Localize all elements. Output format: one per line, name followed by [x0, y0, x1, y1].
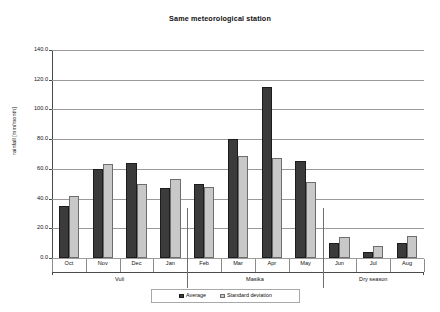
legend-swatch-average-icon	[179, 294, 184, 299]
bar-oct-standard-deviation	[69, 196, 79, 258]
y-axis-tick-mark	[49, 50, 52, 51]
chart-title: Same meteorological station	[0, 14, 440, 23]
y-axis-tick-label: 120.0	[14, 77, 48, 83]
y-axis-tick-label: 20.0	[14, 225, 48, 231]
bar-feb-standard-deviation	[204, 187, 214, 258]
gridline	[52, 50, 424, 51]
bar-dec-standard-deviation	[137, 184, 147, 258]
y-axis-tick-label: 140.0	[14, 47, 48, 53]
x-axis-label-mar: Mar	[221, 261, 255, 267]
x-axis-label-nov: Nov	[86, 261, 120, 267]
season-rule	[52, 272, 187, 273]
bar-jan-standard-deviation	[170, 179, 180, 258]
x-axis-label-jul: Jul	[356, 261, 390, 267]
x-axis-label-jun: Jun	[323, 261, 357, 267]
x-axis-separator	[424, 259, 425, 272]
bar-may-average	[295, 161, 305, 258]
bar-aug-standard-deviation	[407, 236, 417, 258]
bar-oct-average	[59, 206, 69, 258]
bar-aug-average	[397, 243, 407, 258]
season-label-vuli: Vuli	[52, 277, 187, 283]
y-axis-tick-mark	[49, 258, 52, 259]
x-axis-label-jan: Jan	[153, 261, 187, 267]
legend-label-average: Average	[186, 293, 206, 298]
y-axis-tick-label: 0.0	[14, 255, 48, 261]
legend-item-standard-deviation: Standard deviation	[220, 293, 272, 298]
bar-jun-average	[329, 243, 339, 258]
bar-nov-average	[93, 169, 103, 258]
y-axis-tick-label: 60.0	[14, 166, 48, 172]
bar-jul-average	[363, 252, 373, 258]
legend-item-average: Average	[179, 293, 206, 298]
x-axis-separator	[52, 259, 53, 272]
season-label-dry-season: Dry season	[323, 277, 424, 283]
bar-mar-average	[228, 139, 238, 258]
y-axis-tick-mark	[49, 169, 52, 170]
bar-apr-average	[262, 87, 272, 258]
x-axis-category-labels: OctNovDecJanFebMarAprMayJunJulAug	[52, 259, 424, 272]
x-axis-label-apr: Apr	[255, 261, 289, 267]
chart-legend: Average Standard deviation	[151, 289, 300, 303]
x-axis-label-feb: Feb	[187, 261, 221, 267]
x-axis-label-dec: Dec	[120, 261, 154, 267]
gridline	[52, 139, 424, 140]
bar-jul-standard-deviation	[373, 246, 383, 258]
season-divider	[323, 208, 324, 288]
y-axis-tick-mark	[49, 228, 52, 229]
bar-feb-average	[194, 184, 204, 258]
chart-container: Same meteorological station rainfall [mm…	[0, 0, 440, 312]
legend-label-standard-deviation: Standard deviation	[227, 293, 272, 298]
y-axis-tick-mark	[49, 199, 52, 200]
legend-swatch-standard-deviation-icon	[220, 294, 225, 299]
season-divider	[187, 208, 188, 288]
bar-dec-average	[126, 163, 136, 258]
gridline	[52, 80, 424, 81]
y-axis-tick-mark	[49, 109, 52, 110]
season-tick	[423, 272, 424, 275]
season-rule	[323, 272, 424, 273]
y-axis-tick-mark	[49, 80, 52, 81]
y-axis-tick-labels: 0.020.040.060.080.0100.0120.0140.0	[8, 0, 48, 312]
plot-area	[52, 50, 424, 258]
season-label-masika: Masika	[187, 277, 322, 283]
season-group-axis: VuliMasikaDry season	[52, 272, 424, 288]
bar-may-standard-deviation	[306, 182, 316, 258]
bar-nov-standard-deviation	[103, 164, 113, 258]
y-axis-tick-label: 40.0	[14, 196, 48, 202]
season-tick	[52, 272, 53, 275]
x-axis-label-aug: Aug	[390, 261, 424, 267]
bar-apr-standard-deviation	[272, 158, 282, 258]
y-axis-tick-label: 80.0	[14, 136, 48, 142]
x-axis-label-may: May	[289, 261, 323, 267]
gridline	[52, 109, 424, 110]
x-axis-label-oct: Oct	[52, 261, 86, 267]
y-axis-tick-mark	[49, 139, 52, 140]
bar-jan-average	[160, 188, 170, 258]
y-axis-tick-label: 100.0	[14, 106, 48, 112]
season-rule	[187, 272, 322, 273]
bar-jun-standard-deviation	[339, 237, 349, 258]
bar-mar-standard-deviation	[238, 156, 248, 259]
